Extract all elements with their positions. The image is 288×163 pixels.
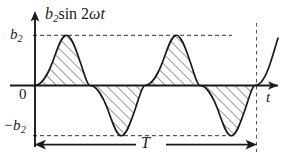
- period-label: T: [141, 135, 150, 151]
- sine-waveform-figure: b2sin 2ωt b2 −b2 0 t T: [0, 0, 288, 163]
- hatched-area-positive: [35, 35, 90, 85]
- ymin-subscript: 2: [21, 124, 26, 135]
- x-axis-label: t: [266, 90, 270, 105]
- title-coefficient: b: [45, 5, 53, 22]
- ymin-symbol: −b: [3, 117, 21, 133]
- y-axis-min-label: −b2: [3, 118, 26, 135]
- title-omega-t: ωt: [89, 5, 105, 22]
- title-function: sin 2: [58, 5, 89, 22]
- hatched-area-negative-2: [200, 86, 255, 136]
- origin-label: 0: [19, 87, 27, 102]
- ymax-symbol: b: [10, 26, 18, 42]
- ymax-subscript: 2: [18, 33, 23, 44]
- hatched-area-positive-2: [145, 35, 200, 85]
- hatched-area-negative: [90, 86, 145, 136]
- y-axis-max-label: b2: [10, 27, 23, 44]
- plot-title: b2sin 2ωt: [45, 6, 105, 24]
